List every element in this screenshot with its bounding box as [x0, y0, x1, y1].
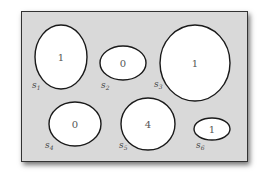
set-label: s5 — [119, 140, 128, 151]
set-label: s4 — [45, 140, 54, 151]
set-s1: 1 s1 — [32, 25, 87, 91]
set-count: 0 — [72, 119, 78, 130]
set-label: s6 — [196, 140, 205, 151]
set-s4: 0 s4 — [45, 102, 101, 151]
set-count: 1 — [209, 124, 215, 135]
set-label: s2 — [101, 80, 110, 91]
set-s3: 1 s3 — [154, 25, 230, 101]
set-label: s1 — [32, 80, 40, 91]
set-count: 4 — [145, 119, 151, 130]
set-s5: 4 s5 — [119, 98, 175, 151]
sets-diagram: 1 s1 0 s2 1 s3 0 s4 4 s5 1 s6 — [0, 0, 266, 177]
set-label: s3 — [154, 79, 163, 90]
set-count: 1 — [192, 58, 198, 69]
set-s6: 1 s6 — [194, 118, 230, 151]
set-count: 1 — [58, 52, 64, 63]
set-s2: 0 s2 — [100, 46, 146, 91]
set-count: 0 — [120, 58, 126, 69]
